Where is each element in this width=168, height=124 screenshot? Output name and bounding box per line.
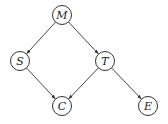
node-m: M (53, 6, 72, 25)
edge-t-to-e (112, 68, 142, 99)
edge-s-to-c (26, 68, 55, 99)
node-label: M (55, 9, 68, 22)
node-s: S (11, 52, 30, 71)
causal-graph: MSTCE (0, 0, 168, 124)
node-label: E (143, 100, 152, 113)
node-t: T (96, 52, 115, 71)
edge-m-to-t (68, 22, 98, 54)
node-c: C (53, 97, 72, 116)
edge-t-to-c (69, 68, 99, 99)
edges-group (26, 22, 141, 99)
node-label: C (58, 100, 67, 113)
node-label: S (16, 55, 24, 68)
node-e: E (139, 97, 158, 116)
edge-m-to-s (27, 22, 56, 54)
nodes-group: MSTCE (11, 6, 158, 116)
